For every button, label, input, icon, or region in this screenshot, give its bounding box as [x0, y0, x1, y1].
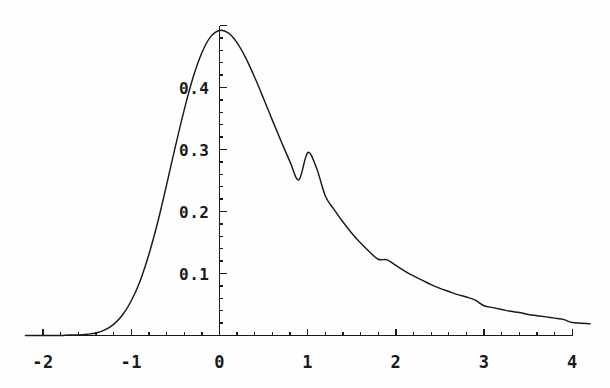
axes-group	[43, 26, 572, 336]
x-tick-label: 0	[214, 352, 225, 372]
x-tick-label: 3	[479, 352, 490, 372]
y-tick-label: 0.3	[162, 140, 210, 159]
y-tick-label: 0.1	[162, 264, 210, 283]
x-tick-label: -1	[121, 352, 142, 372]
x-tick-label: 1	[302, 352, 313, 372]
y-tick-label: 0.2	[162, 202, 210, 221]
plot-canvas: -2-101234 0.10.20.30.4	[0, 0, 610, 388]
chart-svg	[0, 0, 610, 388]
x-tick-label: 2	[391, 352, 402, 372]
x-tick-label: 4	[567, 352, 578, 372]
data-curve-group	[25, 30, 589, 335]
ticks-group	[43, 26, 572, 336]
density-curve-path	[25, 30, 589, 335]
x-tick-label: -2	[32, 352, 53, 372]
y-tick-label: 0.4	[162, 78, 210, 97]
